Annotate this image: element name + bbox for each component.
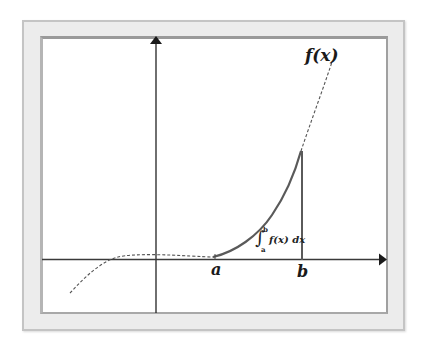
x-axis-arrow-icon (379, 254, 387, 266)
y-axis-arrow-icon (150, 36, 162, 44)
integral-upper-limit: b (263, 226, 268, 233)
lower-bound-label: a (211, 262, 221, 278)
function-label: f(x) (305, 47, 339, 64)
dashed-curve-right (301, 62, 332, 151)
y-axis (150, 36, 162, 313)
dashed-curve-left (70, 255, 214, 293)
integral-diagram (0, 0, 424, 347)
integral-lower-limit: a (261, 246, 266, 253)
integrand: f(x) dx (269, 235, 305, 245)
upper-bound-label: b (297, 264, 308, 280)
